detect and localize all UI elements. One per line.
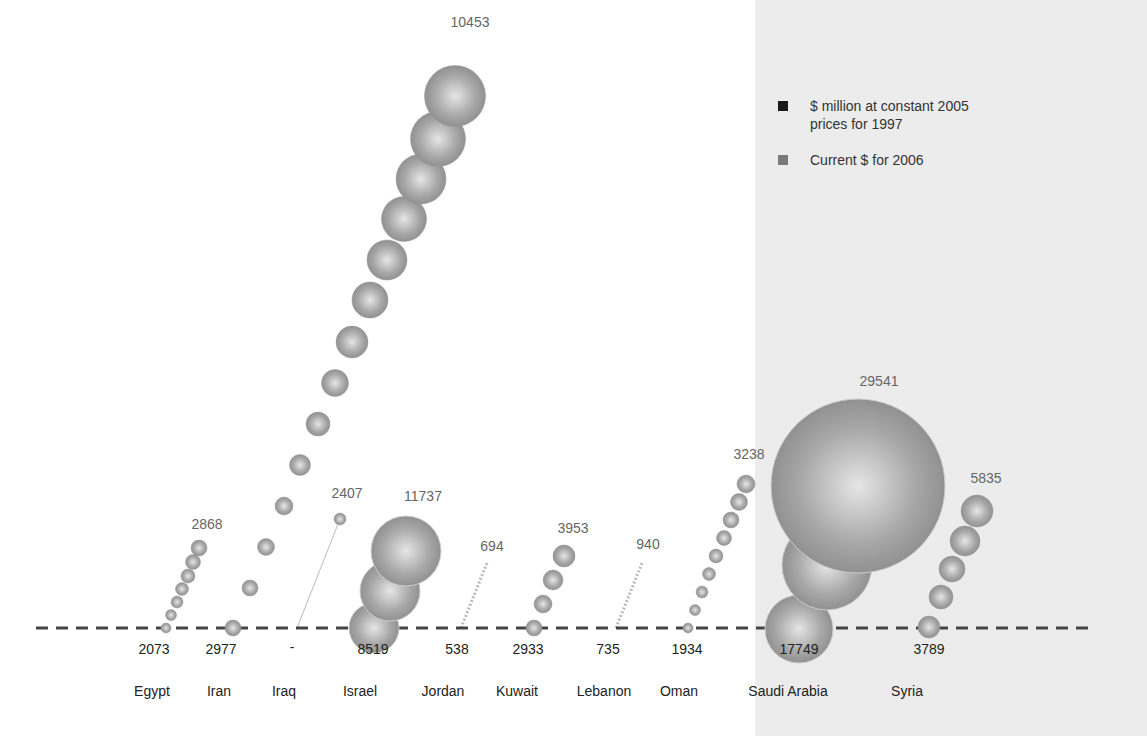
- value-1997-jordan: 538: [445, 641, 468, 657]
- value-1997-egypt: 2073: [138, 641, 169, 657]
- legend-swatch-black: [778, 101, 788, 111]
- category-label-saudi-arabia: Saudi Arabia: [748, 683, 827, 699]
- value-1997-israel: 8519: [357, 641, 388, 657]
- value-2006-iraq: 2407: [331, 485, 362, 501]
- legend-item-2006: Current $ for 2006: [778, 151, 1038, 169]
- category-label-kuwait: Kuwait: [496, 683, 538, 699]
- category-label-israel: Israel: [343, 683, 377, 699]
- value-2006-lebanon: 940: [636, 536, 659, 552]
- jordan-connector-line: [461, 563, 487, 628]
- legend-label-2006: Current $ for 2006: [810, 152, 924, 168]
- value-2006-oman: 3238: [733, 446, 764, 462]
- saudi-arabia-bubble-chain: [765, 399, 945, 663]
- israel-bubble-chain: [349, 516, 441, 653]
- category-label-jordan: Jordan: [422, 683, 465, 699]
- legend-swatch-gray: [778, 155, 788, 165]
- value-2006-kuwait: 3953: [557, 520, 588, 536]
- value-2006-syria: 5835: [970, 470, 1001, 486]
- kuwait-bubble-chain: [526, 545, 575, 636]
- value-1997-iraq: -: [290, 639, 295, 655]
- value-2006-saudi-arabia: 29541: [860, 373, 899, 389]
- lebanon-connector-line: [616, 563, 642, 628]
- oman-bubble-chain: [683, 475, 755, 633]
- value-1997-saudi-arabia: 17749: [780, 641, 819, 657]
- iran-bubble-chain: [225, 66, 486, 637]
- category-label-lebanon: Lebanon: [577, 683, 632, 699]
- legend: $ million at constant 2005 prices for 19…: [778, 97, 1038, 187]
- value-1997-syria: 3789: [913, 641, 944, 657]
- legend-label-1997-line1: $ million at constant 2005: [810, 98, 969, 114]
- category-label-oman: Oman: [660, 683, 698, 699]
- value-1997-iran: 2977: [205, 641, 236, 657]
- legend-item-1997: $ million at constant 2005 prices for 19…: [778, 97, 1038, 133]
- category-label-egypt: Egypt: [134, 683, 170, 699]
- value-2006-jordan: 694: [480, 538, 503, 554]
- legend-label-1997-line2: prices for 1997: [810, 116, 903, 132]
- value-2006-israel: 11737: [404, 488, 442, 504]
- category-label-iran: Iran: [207, 683, 231, 699]
- value-1997-lebanon: 735: [596, 641, 619, 657]
- value-2006-iran: 10453: [451, 14, 490, 30]
- value-1997-kuwait: 2933: [512, 641, 543, 657]
- category-label-iraq: Iraq: [272, 683, 296, 699]
- value-1997-oman: 1934: [671, 641, 702, 657]
- iraq-bubble: [334, 513, 346, 525]
- iraq-connector-line: [297, 519, 340, 628]
- category-label-syria: Syria: [891, 683, 923, 699]
- egypt-bubble-chain: [161, 540, 207, 633]
- value-2006-egypt: 2868: [191, 516, 222, 532]
